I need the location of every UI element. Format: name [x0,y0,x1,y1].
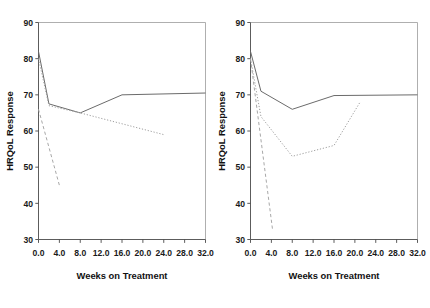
series-line-solid [39,51,206,112]
y-tick-label: 90 [23,18,33,28]
y-tick-label: 40 [23,199,33,209]
plot-frame [251,23,418,240]
x-tick-label: 8.0 [74,248,86,258]
plot-area-left: 908070605040300.04.08.012.016.020.024.02… [4,18,215,281]
x-tick-label: 4.0 [53,248,65,258]
y-tick-label: 40 [235,199,245,209]
x-tick-label: 24.0 [155,248,172,258]
figure-container: 908070605040300.04.08.012.016.020.024.02… [0,0,430,308]
x-tick-label: 4.0 [265,248,277,258]
y-tick-label: 80 [23,54,33,64]
y-tick-label: 60 [235,126,245,136]
y-tick-label: 30 [23,235,33,245]
x-tick-label: 12.0 [93,248,110,258]
y-tick-label: 90 [235,18,245,28]
x-axis-title: Weeks on Treatment [76,270,167,281]
chart-panel-right: 908070605040300.04.08.012.016.020.024.02… [215,0,430,308]
chart-panel-left: 908070605040300.04.08.012.016.020.024.02… [0,0,215,308]
x-tick-label: 8.0 [286,248,298,258]
x-tick-label: 12.0 [305,248,322,258]
series-line-dashed [39,109,60,185]
chart-svg-right: 908070605040300.04.08.012.016.020.024.02… [215,0,430,308]
x-tick-label: 0.0 [33,248,45,258]
x-tick-label: 32.0 [409,248,426,258]
y-tick-label: 30 [235,235,245,245]
x-axis-title: Weeks on Treatment [288,270,379,281]
x-tick-label: 0.0 [245,248,257,258]
series-line-dotted [39,59,164,135]
plot-area-right: 908070605040300.04.08.012.016.020.024.02… [216,18,427,281]
x-tick-label: 28.0 [388,248,405,258]
y-tick-label: 60 [23,126,33,136]
plot-frame [39,23,206,240]
y-tick-label: 70 [235,90,245,100]
chart-svg-left: 908070605040300.04.08.012.016.020.024.02… [0,0,215,308]
x-tick-label: 16.0 [114,248,131,258]
x-tick-label: 32.0 [197,248,214,258]
x-tick-label: 20.0 [347,248,364,258]
y-tick-label: 80 [235,54,245,64]
y-tick-label: 50 [23,162,33,172]
series-line-solid [251,51,418,109]
x-tick-label: 16.0 [326,248,343,258]
x-tick-label: 24.0 [367,248,384,258]
y-tick-label: 50 [235,162,245,172]
x-tick-label: 28.0 [176,248,193,258]
y-axis-title: HRQoL Response [4,91,15,171]
series-line-dashed [251,59,273,229]
x-tick-label: 20.0 [135,248,152,258]
y-axis-title: HRQoL Response [216,91,227,171]
y-tick-label: 70 [23,90,33,100]
series-line-dotted [251,59,361,157]
